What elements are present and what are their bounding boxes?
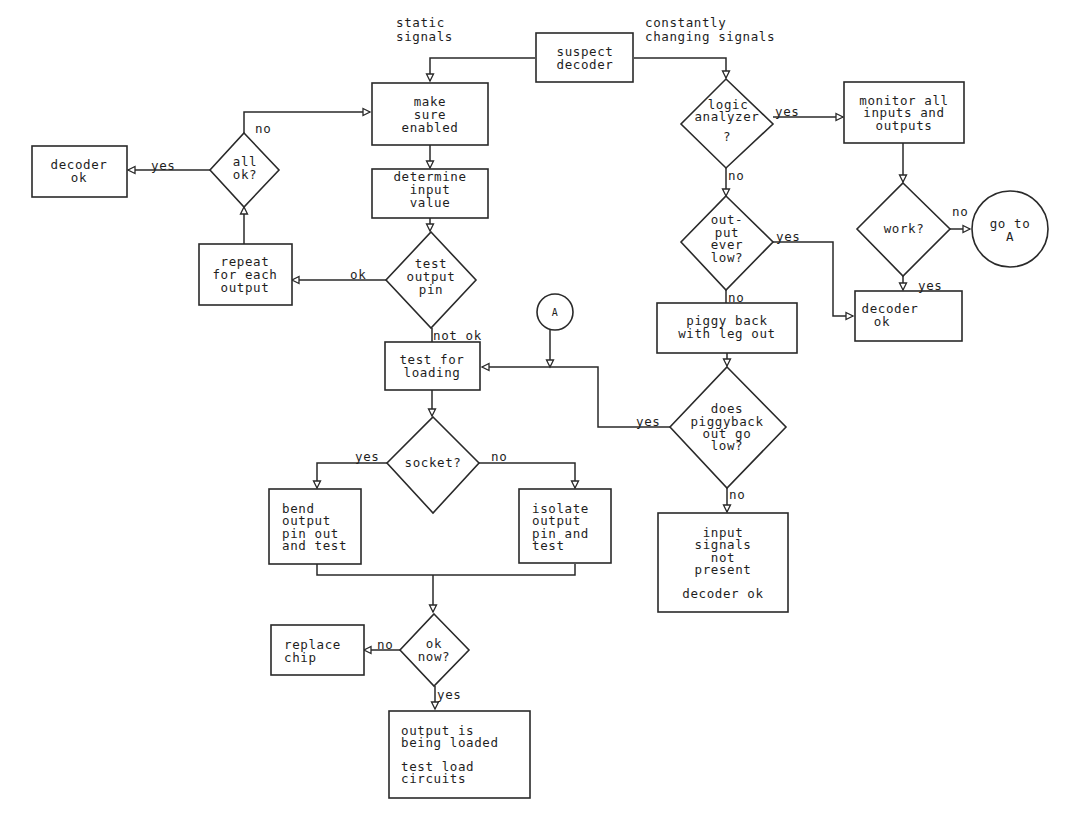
label-logic-no: no [728,168,744,183]
svg-text:outputs: outputs [876,118,933,133]
node-input-signals-not-present: input signals not present decoder ok [658,513,788,612]
node-output-ever-low: out- put ever low? [681,196,773,290]
svg-text:with leg out: with leg out [678,326,776,341]
node-go-to-a: go to A [972,191,1048,267]
static-signals-label: signals [396,29,453,44]
svg-text:pin: pin [419,282,443,297]
svg-text:enabled: enabled [402,120,459,135]
edge-suspect-to-enabled [430,58,535,81]
troubleshooting-flowchart: static signals constantly changing signa… [0,0,1071,816]
label-ok-now-no: no [377,637,393,652]
svg-text:low?: low? [711,438,744,453]
label-work-no: no [952,204,968,219]
label-socket-no: no [491,449,507,464]
static-signals-label: static [396,15,445,30]
node-isolate-output: isolate output pin and test [519,489,611,563]
svg-text:present: present [695,562,752,577]
node-work: work? [857,183,950,276]
svg-text:test: test [532,538,565,553]
label-ok-now-yes: yes [437,687,461,702]
label-all-ok-yes: yes [151,158,175,173]
edge-socket-to-bend [317,463,388,488]
node-all-ok: all ok? [210,133,279,207]
node-output-being-loaded: output is being loaded test load circuit… [389,711,530,798]
svg-text:being loaded: being loaded [401,735,499,750]
svg-text:and test: and test [282,538,347,553]
label-all-ok-no: no [255,121,271,136]
node-determine-input-value: determine input value [372,169,488,218]
node-suspect-decoder: suspect decoder [536,33,633,82]
svg-text:ok: ok [71,170,87,185]
node-test-output-pin: test output pin [386,232,476,328]
svg-text:value: value [410,195,451,210]
label-test-pin-not-ok: not ok [433,328,482,343]
svg-text:low?: low? [711,250,744,265]
node-logic-analyzer: logic analyzer ? [681,79,773,168]
svg-text:ok?: ok? [233,167,257,182]
label-socket-yes: yes [355,449,379,464]
node-does-piggyback-go-low: does piggyback out go low? [670,367,786,488]
svg-text:decoder ok: decoder ok [682,586,763,601]
node-repeat-for-each-output: repeat for each output [199,244,292,305]
node-piggy-back: piggy back with leg out [657,303,797,353]
svg-text:socket?: socket? [405,455,462,470]
edge-merge [317,564,575,575]
node-make-sure-enabled: make sure enabled [372,83,488,145]
svg-text:output: output [221,280,270,295]
svg-text:chip: chip [284,650,317,665]
svg-text:decoder: decoder [557,57,614,72]
node-replace-chip: replace chip [271,625,364,675]
svg-text:A: A [1006,229,1014,244]
edge-socket-to-isolate [478,463,575,488]
node-bend-output: bend output pin out and test [269,489,361,564]
edge-labels: no yes ok not ok yes no no yes yes no ye… [151,104,968,702]
svg-text:A: A [552,307,559,318]
label-piggyback-yes: yes [636,414,660,429]
node-decoder-ok-right: decoder ok [855,291,962,341]
node-connector-a: A [537,294,573,330]
label-piggyback-no: no [729,487,745,502]
changing-signals-label: constantly [645,15,726,30]
svg-text:now?: now? [418,649,451,664]
node-test-for-loading: test for loading [385,342,480,390]
label-ever-low-yes: yes [776,229,800,244]
svg-text:work?: work? [884,221,925,236]
svg-text:ok: ok [874,314,890,329]
svg-text:analyzer: analyzer [694,109,759,124]
svg-text:circuits: circuits [401,771,466,786]
svg-text:?: ? [723,129,731,144]
node-ok-now: ok now? [400,614,469,686]
label-ever-low-no: no [728,290,744,305]
label-work-yes: yes [918,278,942,293]
node-socket: socket? [387,417,479,513]
node-monitor-all: monitor all inputs and outputs [844,82,964,143]
edge-suspect-to-logic [634,58,726,78]
label-test-pin-ok: ok [350,267,366,282]
node-decoder-ok-left: decoder ok [32,146,127,197]
svg-text:loading: loading [404,365,461,380]
changing-signals-label: changing signals [645,29,775,44]
label-logic-yes: yes [775,104,799,119]
